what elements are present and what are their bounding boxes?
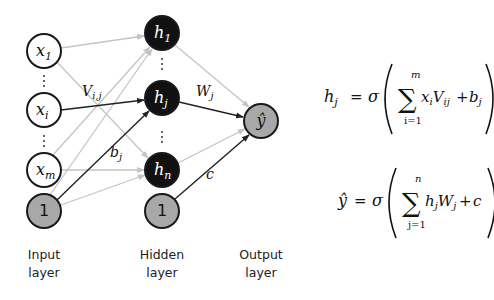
hidden-node-hn: hn bbox=[145, 153, 179, 187]
input-node-xm: xm bbox=[27, 153, 61, 187]
edge-label-vij: Vi,j bbox=[82, 83, 102, 101]
edge-label-bj: bj bbox=[110, 144, 122, 162]
output-node: ŷ bbox=[244, 104, 278, 138]
svg-text:ŷ: ŷ bbox=[255, 111, 266, 130]
edge-x1-h1 bbox=[61, 36, 144, 48]
sum-icon: ∑ bbox=[398, 84, 417, 114]
svg-text:hjWj: hjWj bbox=[425, 192, 456, 211]
input-layer-label: Input layer bbox=[4, 246, 84, 282]
input-node-x1: x1 bbox=[27, 34, 61, 68]
svg-text:=: = bbox=[354, 192, 367, 210]
output-layer-label-line1: Output bbox=[221, 246, 301, 264]
edge-x1-hn bbox=[57, 62, 148, 158]
hidden-bias-node: 1 bbox=[145, 194, 179, 228]
output-equation: ŷ = σ n ∑ j=1 hjWj + c bbox=[318, 162, 494, 244]
edge-label-wj: Wj bbox=[196, 83, 214, 101]
svg-text:i=1: i=1 bbox=[404, 115, 422, 126]
svg-text:n: n bbox=[415, 173, 421, 184]
svg-text:xiVij: xiVij bbox=[421, 88, 450, 107]
edge-hj-y bbox=[179, 102, 243, 117]
svg-text:1: 1 bbox=[39, 201, 49, 220]
input-layer-label-line2: layer bbox=[4, 264, 84, 282]
svg-text:σ: σ bbox=[372, 191, 384, 210]
hidden-equation: hj = σ m ∑ i=1 xiVij + bj bbox=[318, 58, 494, 140]
svg-text:m: m bbox=[411, 69, 420, 80]
hidden-layer-label-line1: Hidden bbox=[122, 246, 202, 264]
hidden-layer-label-line2: layer bbox=[122, 264, 202, 282]
input-layer-label-line1: Input bbox=[4, 246, 84, 264]
svg-text:ŷ: ŷ bbox=[337, 191, 348, 210]
edge-hn-y bbox=[178, 129, 245, 163]
hidden-layer-label: Hidden layer bbox=[122, 246, 202, 282]
input-node-xi: xi bbox=[27, 93, 61, 127]
svg-text:=: = bbox=[350, 88, 363, 106]
svg-text:+: + bbox=[456, 88, 469, 106]
sum-icon: ∑ bbox=[402, 188, 421, 218]
neural-network-diagram: Vi,j bj Wj c x1xixm1h1hjhn1ŷ bbox=[0, 0, 300, 240]
hidden-node-hj: hj bbox=[145, 81, 179, 115]
edge-bias-hj bbox=[57, 111, 149, 200]
edge-bias-hn bbox=[61, 175, 145, 205]
svg-text:hj: hj bbox=[324, 87, 338, 109]
edge-xi-hj bbox=[61, 100, 144, 110]
svg-text:c: c bbox=[473, 192, 482, 210]
hidden-node-h1: h1 bbox=[145, 16, 179, 50]
edge-label-c: c bbox=[206, 166, 214, 182]
output-layer-label-line2: layer bbox=[221, 264, 301, 282]
svg-text:j=1: j=1 bbox=[407, 219, 426, 230]
svg-text:1: 1 bbox=[157, 201, 167, 220]
svg-text:bj: bj bbox=[469, 88, 482, 107]
input-bias-node: 1 bbox=[27, 194, 61, 228]
output-layer-label: Output layer bbox=[221, 246, 301, 282]
svg-text:σ: σ bbox=[368, 87, 380, 106]
svg-text:+: + bbox=[459, 192, 472, 210]
